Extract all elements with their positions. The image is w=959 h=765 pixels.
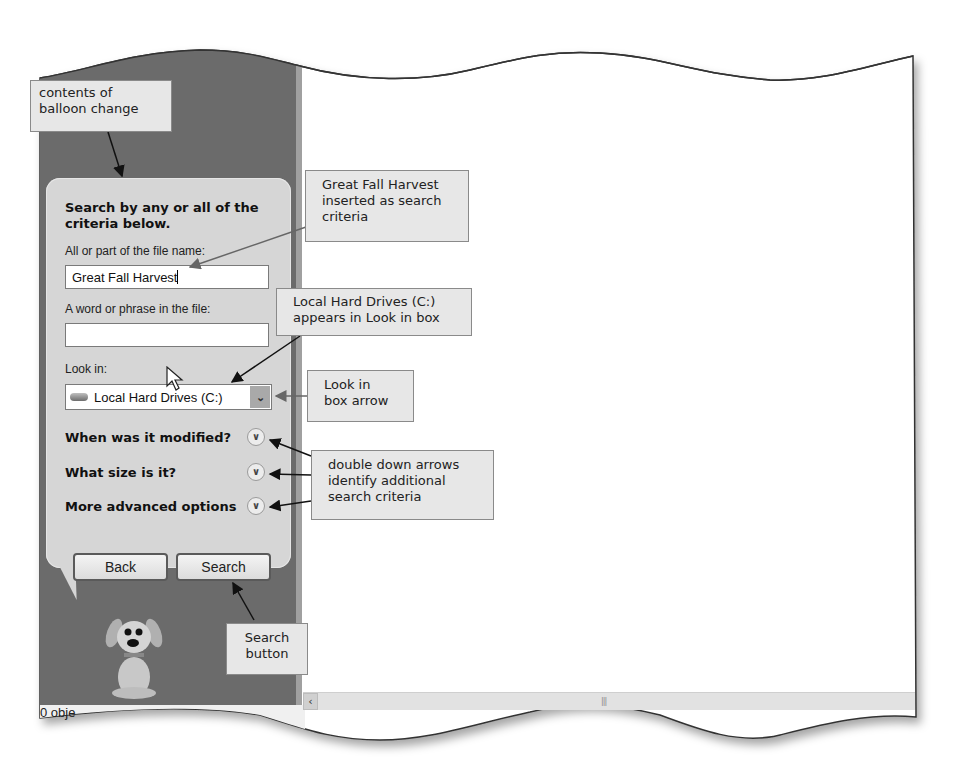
double-chevron-down-icon[interactable]: ∨: [247, 497, 265, 515]
double-chevron-down-icon[interactable]: ∨: [247, 463, 265, 481]
look-in-value: Local Hard Drives (C:): [94, 390, 223, 405]
search-button[interactable]: Search: [176, 553, 271, 581]
option-label: What size is it?: [65, 465, 176, 480]
option-advanced[interactable]: More advanced options ∨: [65, 497, 280, 517]
option-when-modified[interactable]: When was it modified? ∨: [65, 428, 280, 448]
callout-search-button: Search button: [226, 623, 308, 675]
callout-look-in-box: Local Hard Drives (C:) appears in Look i…: [276, 288, 472, 336]
search-companion-dog-icon[interactable]: [100, 615, 170, 705]
search-heading: Search by any or all of the criteria bel…: [65, 200, 280, 232]
option-label: More advanced options: [65, 499, 236, 514]
file-name-label: All or part of the file name:: [65, 244, 205, 258]
text-caret: [177, 270, 178, 284]
back-button[interactable]: Back: [73, 553, 168, 581]
callout-look-in-arrow: Look in box arrow: [307, 370, 414, 422]
callout-double-arrows: double down arrows identify additional s…: [311, 450, 494, 520]
file-name-input[interactable]: Great Fall Harvest: [65, 265, 269, 289]
double-chevron-down-icon[interactable]: ∨: [247, 428, 265, 446]
option-label: When was it modified?: [65, 430, 231, 445]
look-in-label: Look in:: [65, 362, 107, 376]
callout-inserted-criteria: Great Fall Harvest inserted as search cr…: [305, 170, 469, 242]
callout-balloon-change: contents of balloon change: [30, 80, 172, 132]
phrase-input[interactable]: [65, 323, 269, 347]
scrollbar-grip[interactable]: |||: [601, 697, 606, 706]
scroll-left-arrow[interactable]: ‹: [303, 693, 318, 710]
phrase-label: A word or phrase in the file:: [65, 302, 210, 316]
option-what-size[interactable]: What size is it? ∨: [65, 463, 280, 483]
mouse-pointer-icon: [166, 366, 186, 392]
status-bar-text: 0 obje: [40, 705, 75, 720]
file-name-value: Great Fall Harvest: [72, 270, 177, 285]
look-in-dropdown-arrow[interactable]: ⌄: [250, 386, 270, 408]
hard-drive-icon: [70, 393, 88, 401]
horizontal-scrollbar[interactable]: ‹ |||: [303, 692, 915, 710]
